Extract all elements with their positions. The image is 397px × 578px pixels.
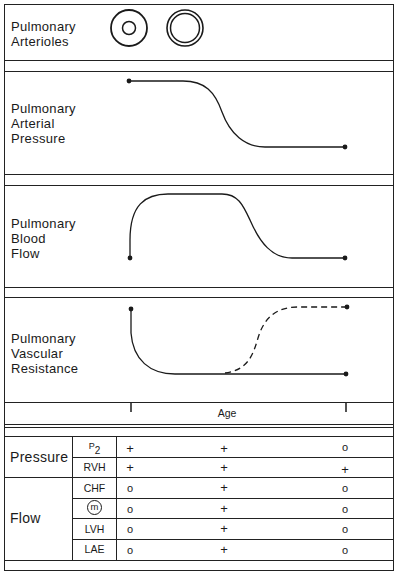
- label-line: Vascular: [11, 346, 78, 361]
- panel-blood-flow-label: Pulmonary Blood Flow: [11, 216, 76, 261]
- panel-arterioles-label: Pulmonary Arterioles: [11, 19, 76, 49]
- sign-p2-subscript: 2: [95, 445, 101, 456]
- label-line: Pulmonary: [11, 216, 76, 231]
- panel-vascular-resistance-label: Pulmonary Vascular Resistance: [11, 331, 78, 376]
- age-label: Age: [5, 407, 393, 419]
- sign-lae: LAE: [73, 543, 116, 555]
- value-cell: +: [214, 542, 234, 557]
- circled-m-icon: m: [87, 500, 102, 515]
- value-cell: o: [120, 544, 140, 556]
- value-cell: +: [120, 460, 140, 475]
- sign-lvh: LVH: [73, 523, 116, 535]
- sign-rvh: RVH: [73, 461, 116, 473]
- label-line: Arterial: [11, 116, 76, 131]
- value-cell: o: [335, 441, 355, 453]
- sign-p2: P2: [73, 441, 116, 456]
- value-cell: +: [120, 441, 140, 456]
- value-cell: o: [120, 503, 140, 515]
- value-cell: o: [335, 503, 355, 515]
- panel-arterial-pressure-label: Pulmonary Arterial Pressure: [11, 101, 76, 146]
- table-footer-strip: [4, 560, 394, 571]
- table-row-divider: [72, 457, 394, 458]
- label-line: Arterioles: [11, 34, 76, 49]
- value-cell: +: [214, 460, 234, 475]
- label-line: Pulmonary: [11, 331, 78, 346]
- table-group-divider: [4, 477, 394, 478]
- group-label-pressure: Pressure: [10, 450, 68, 465]
- value-cell: o: [120, 523, 140, 535]
- panel-arterioles: Pulmonary Arterioles: [4, 4, 394, 61]
- panel-blood-flow: Pulmonary Blood Flow: [4, 185, 394, 288]
- table-row-divider: [72, 518, 394, 519]
- age-axis: Age: [4, 402, 394, 425]
- group-label-flow: Flow: [10, 511, 41, 526]
- value-cell: o: [120, 482, 140, 494]
- value-cell: o: [335, 544, 355, 556]
- value-cell: o: [335, 482, 355, 494]
- value-cell: +: [335, 462, 355, 477]
- panel-vascular-resistance: Pulmonary Vascular Resistance: [4, 297, 394, 403]
- table-row-divider: [72, 498, 394, 499]
- label-line: Flow: [11, 246, 76, 261]
- circled-m-letter: m: [91, 501, 99, 512]
- label-line: Pressure: [11, 131, 76, 146]
- label-line: Pulmonary: [11, 19, 76, 34]
- label-line: Resistance: [11, 361, 78, 376]
- table-row-divider: [72, 539, 394, 540]
- label-line: Blood: [11, 231, 76, 246]
- sign-circled-m: m: [73, 500, 116, 515]
- value-cell: o: [335, 523, 355, 535]
- sign-chf: CHF: [73, 482, 116, 494]
- value-cell: +: [214, 521, 234, 536]
- label-line: Pulmonary: [11, 101, 76, 116]
- value-cell: +: [214, 441, 234, 456]
- panel-arterial-pressure: Pulmonary Arterial Pressure: [4, 71, 394, 175]
- value-cell: +: [214, 501, 234, 516]
- value-cell: +: [214, 480, 234, 495]
